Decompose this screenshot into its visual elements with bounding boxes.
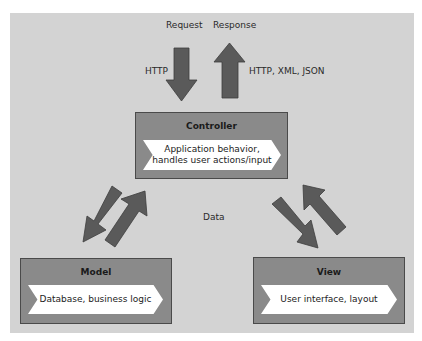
view-title: View bbox=[254, 268, 404, 277]
controller-description-line1: Application behavior, bbox=[152, 144, 271, 155]
request-label: Request bbox=[166, 21, 203, 30]
controller-description-line2: handles user actions/input bbox=[152, 155, 271, 166]
model-description-text: Database, business logic bbox=[40, 294, 152, 305]
model-description: Database, business logic bbox=[28, 285, 163, 314]
data-label: Data bbox=[203, 213, 225, 222]
controller-title: Controller bbox=[136, 122, 287, 131]
http-label: HTTP bbox=[145, 67, 168, 76]
model-title: Model bbox=[21, 268, 171, 277]
controller-description: Application behavior, handles user actio… bbox=[143, 140, 281, 170]
response-label: Response bbox=[213, 21, 256, 30]
http-xml-json-label: HTTP, XML, JSON bbox=[249, 67, 325, 76]
view-description: User interface, layout bbox=[261, 285, 397, 314]
view-description-text: User interface, layout bbox=[280, 294, 377, 305]
